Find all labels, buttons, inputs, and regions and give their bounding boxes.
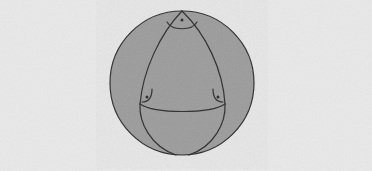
sphere-texture [111,12,254,155]
spherical-triangle-diagram [0,0,372,171]
figure-canvas [0,0,372,171]
